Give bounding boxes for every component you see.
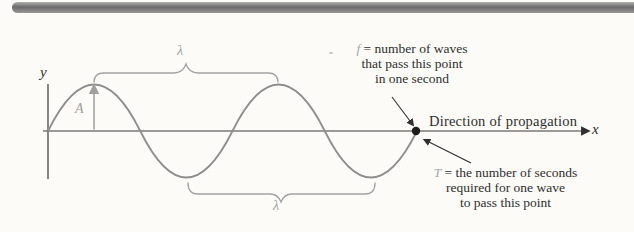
period-line-1: T = the number of seconds (403, 165, 608, 180)
wavelength-label-bottom: λ (273, 198, 279, 214)
amplitude-label: A (75, 101, 84, 117)
frequency-pointer-arrow (392, 97, 410, 121)
frequency-annotation: f = number of waves that pass this point… (338, 41, 486, 86)
stray-mark (329, 52, 333, 54)
wavelength-label-top: λ (177, 43, 183, 59)
wavelength-brace-bottom (188, 183, 375, 202)
frequency-line-2: that pass this point (338, 56, 486, 71)
direction-of-propagation-label: Direction of propagation (429, 113, 577, 130)
period-pointer-arrow (429, 142, 471, 163)
x-axis-label: x (592, 121, 599, 138)
period-definition: = the number of seconds (445, 165, 578, 180)
observation-point-dot (412, 127, 420, 135)
frequency-line-1: f = number of waves (338, 41, 486, 56)
period-line-3: to pass this point (403, 195, 608, 210)
period-annotation: T = the number of seconds required for o… (403, 165, 608, 210)
period-line-2: required for one wave (403, 180, 608, 195)
wavelength-brace-top (94, 64, 278, 82)
y-axis-label: y (40, 64, 47, 81)
wave-figure: y x A λ λ Direction of propagation f = n… (0, 0, 634, 232)
period-variable: T (434, 165, 442, 180)
frequency-line-3: in one second (338, 71, 486, 86)
frequency-variable: f (356, 41, 360, 56)
frequency-definition: = number of waves (364, 41, 468, 56)
